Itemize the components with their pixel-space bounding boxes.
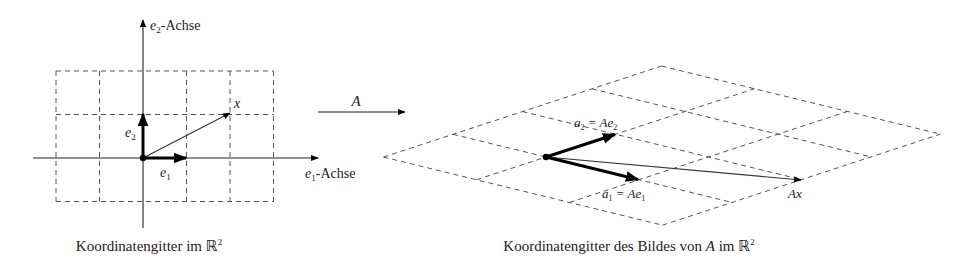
Ax-label: Ax: [787, 186, 802, 201]
image-coordinate-grid: [384, 66, 941, 225]
vector-e1-label: e1: [160, 165, 171, 182]
vector-Ax: [546, 157, 801, 180]
image-grid-line: [663, 134, 941, 225]
linear-map-diagram: e2-Achse e1-Achse e2 e1 x Koordinatengit…: [0, 0, 963, 269]
image-grid-line: [523, 112, 802, 180]
vector-a1: [546, 157, 638, 180]
a1-label: a1 = Ae1: [602, 186, 645, 203]
left-coordinate-grid: [56, 71, 274, 202]
mapping-label: A: [350, 93, 361, 109]
image-grid-line: [662, 66, 941, 134]
origin-dot: [140, 155, 146, 161]
vector-a2: [546, 135, 615, 158]
image-grid-line: [477, 89, 755, 180]
vector-x-label: x: [233, 96, 241, 111]
e2-axis-label: e2-Achse: [150, 18, 200, 35]
e1-axis-label: e1-Achse: [305, 166, 355, 183]
vector-e2-label: e2: [125, 125, 136, 142]
a2-label: a2 = Ae2: [574, 115, 617, 132]
image-origin-dot: [543, 154, 549, 160]
left-caption: Koordinatengitter im ℝ2: [76, 237, 222, 255]
right-caption: Koordinatengitter des Bildes von A im ℝ2: [503, 237, 754, 255]
image-grid-line: [592, 89, 871, 157]
